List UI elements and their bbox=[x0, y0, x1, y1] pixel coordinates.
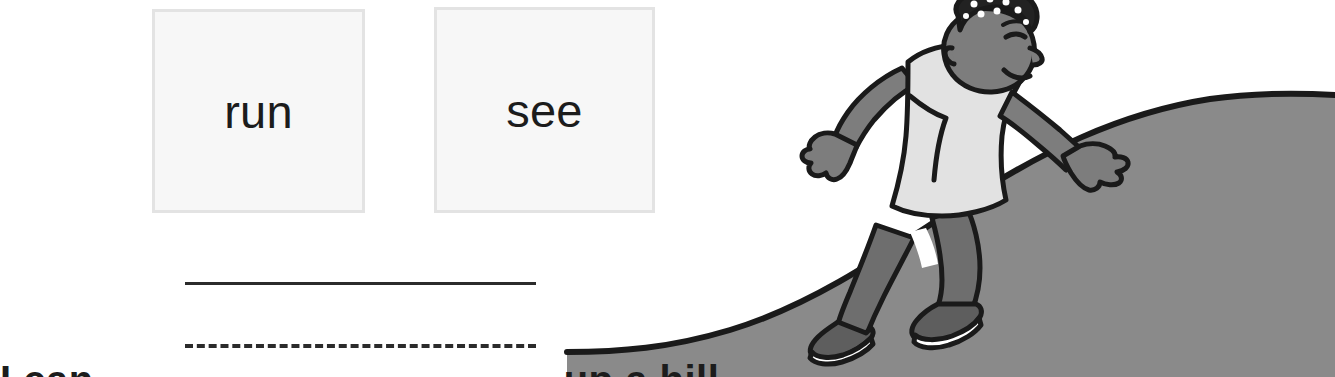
writing-line-solid bbox=[185, 282, 536, 285]
sentence-after-blank: up a hill. bbox=[564, 360, 731, 377]
sentence-prompt: I canup a hill. bbox=[0, 360, 1335, 377]
illustration-boy-running-on-hill bbox=[560, 0, 1335, 377]
word-card-label: run bbox=[224, 88, 293, 135]
writing-line-dashed bbox=[185, 344, 536, 348]
worksheet-page: run see bbox=[0, 0, 1335, 377]
sentence-before-blank: I can bbox=[0, 360, 94, 377]
word-card-run[interactable]: run bbox=[152, 9, 365, 213]
